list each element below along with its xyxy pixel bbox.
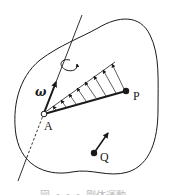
segment-AP bbox=[44, 91, 126, 114]
point-A-label: A bbox=[44, 119, 53, 133]
point-P bbox=[123, 88, 129, 94]
rotation-axis-lower bbox=[18, 157, 27, 181]
rotation-axis-dashed bbox=[27, 113, 44, 157]
point-A bbox=[41, 111, 47, 117]
point-Q-label: Q bbox=[100, 150, 109, 164]
rigid-body-diagram: ω A P Q 図 ・・・ 剛体運動 bbox=[0, 0, 169, 195]
omega-label: ω bbox=[35, 85, 47, 99]
figure-caption: 図 ・・・ 剛体運動 bbox=[40, 189, 126, 195]
rotation-arrow-icon bbox=[61, 60, 77, 71]
point-P-label: P bbox=[133, 89, 140, 103]
velocity-distribution-arrows bbox=[53, 64, 125, 110]
